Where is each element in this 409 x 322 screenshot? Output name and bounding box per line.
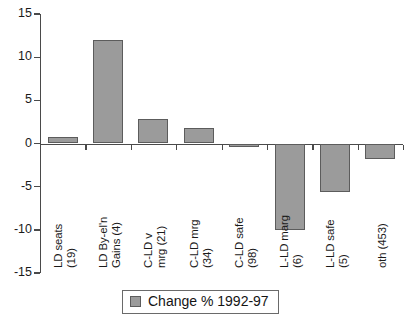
x-axis-category-label: C-LD safe (98) [233,153,258,268]
chart-legend: Change % 1992-97 [122,290,279,314]
bar [184,128,214,144]
y-axis-tick-label: -15 [0,266,32,278]
y-axis-tick [34,272,40,273]
x-axis-tick [222,145,223,150]
y-axis-tick [34,57,40,58]
y-axis-tick [34,13,40,14]
x-axis-tick [358,145,359,150]
legend-label: Change % 1992-97 [148,294,269,309]
y-axis-tick-label: 5 [0,93,32,105]
x-axis-category-label: C-LD mrg (34) [188,153,213,268]
bar-chart: 151050-5-10-15 LD seats (19)LD By-el'n G… [0,0,409,322]
y-axis-tick-label: 15 [0,7,32,19]
y-axis-tick-label: 10 [0,50,32,62]
bar [138,119,168,144]
bar [229,144,259,147]
x-axis-category-label: L-LD marg (6) [278,153,303,268]
x-axis-category-label: L-LD safe (5) [324,153,349,268]
x-axis-tick [131,145,132,150]
x-axis-category-label: LD By-el'n Gains (4) [97,153,122,268]
x-axis-category-label: C-LD v mrg (21) [142,153,167,268]
legend-swatch-icon [130,296,141,307]
x-axis-tick [267,145,268,150]
bar [93,40,123,144]
x-axis-tick [312,145,313,150]
x-axis-tick [403,145,404,150]
x-axis-tick [176,145,177,150]
x-axis-tick [85,145,86,150]
y-axis-tick [34,186,40,187]
y-axis-tick-label: -10 [0,223,32,235]
y-axis-tick-label: -5 [0,180,32,192]
x-axis-category-label: oth (453) [376,153,389,268]
x-axis-category-label: LD seats (19) [52,153,77,268]
y-axis-tick [34,229,40,230]
bar [48,137,78,143]
y-axis-tick-label: 0 [0,137,32,149]
y-axis-tick [34,143,40,144]
y-axis-tick [34,100,40,101]
